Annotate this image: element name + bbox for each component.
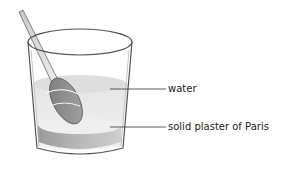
plaster-label: solid plaster of Paris <box>168 121 269 133</box>
water-label: water <box>168 83 197 95</box>
plaster-layer <box>38 118 121 149</box>
glass-diagram <box>0 0 296 169</box>
